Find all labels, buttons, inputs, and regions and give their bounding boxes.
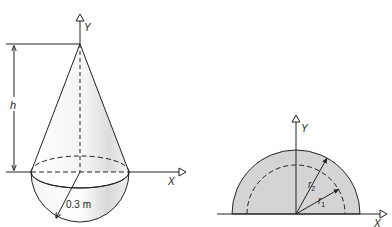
radius-label: 0.3 m <box>66 199 91 210</box>
x-axis-label: X <box>373 218 381 227</box>
height-label: h <box>10 99 16 111</box>
x-axis-arrow-icon <box>380 210 387 218</box>
diagram-canvas: Y X h 0.3 m X Y r2 r1 <box>0 0 392 227</box>
right-figure: X Y r2 r1 <box>217 115 387 227</box>
y-axis-arrow-icon <box>76 14 84 21</box>
y-axis-arrow-icon <box>292 115 300 122</box>
y-axis-label: Y <box>84 22 92 33</box>
left-figure: Y X h 0.3 m <box>6 14 186 222</box>
x-axis-label: X <box>167 176 175 187</box>
y-axis-label: Y <box>301 123 309 134</box>
hemisphere-body <box>31 172 129 222</box>
x-axis-arrow-icon <box>179 168 186 176</box>
